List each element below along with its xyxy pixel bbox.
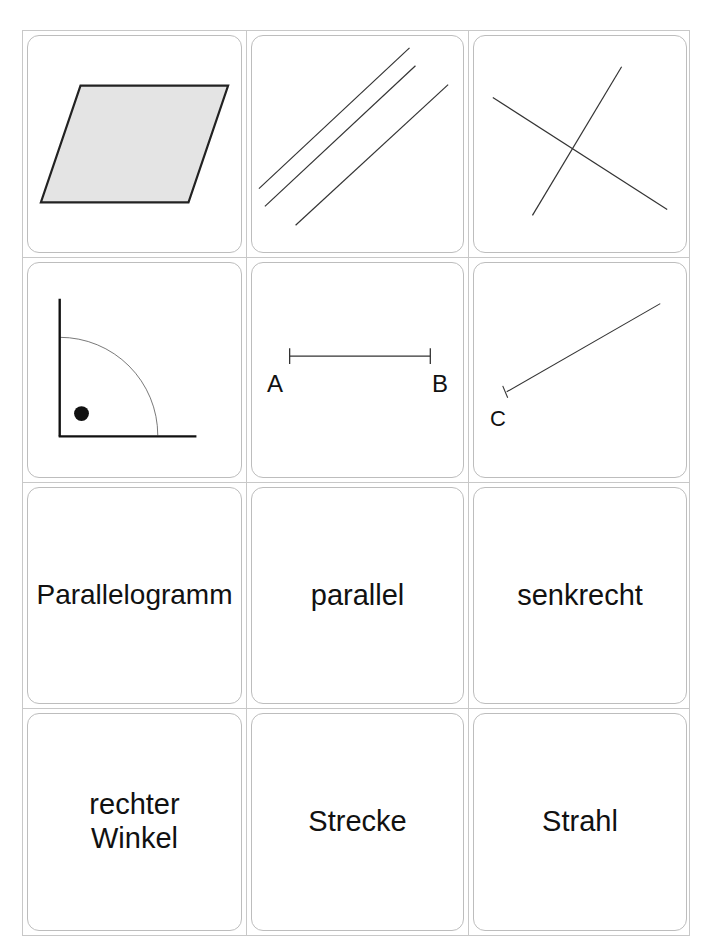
cell-segment-picture: A B bbox=[247, 258, 468, 482]
cell-ray-picture: C bbox=[469, 258, 691, 482]
word-right-angle-line2: Winkel bbox=[89, 822, 179, 856]
word-card-right-angle[interactable]: rechter Winkel bbox=[27, 713, 242, 931]
word-card-perpendicular[interactable]: senkrecht bbox=[473, 487, 687, 704]
picture-card-perpendicular[interactable] bbox=[473, 35, 687, 253]
cell-right-angle-word: rechter Winkel bbox=[23, 709, 246, 935]
point-label-a: A bbox=[267, 372, 283, 396]
parallelogram-icon bbox=[28, 36, 241, 252]
picture-card-ray[interactable]: C bbox=[473, 262, 687, 478]
right-angle-icon bbox=[28, 263, 241, 477]
picture-card-parallel[interactable] bbox=[251, 35, 464, 253]
word-card-parallel[interactable]: parallel bbox=[251, 487, 464, 704]
point-label-b: B bbox=[432, 372, 448, 396]
picture-card-parallelogram[interactable] bbox=[27, 35, 242, 253]
picture-card-segment[interactable]: A B bbox=[251, 262, 464, 478]
perpendicular-lines-icon bbox=[474, 36, 686, 252]
cell-perpendicular-word: senkrecht bbox=[469, 483, 691, 708]
word-right-angle-line1: rechter bbox=[89, 788, 179, 822]
cell-perpendicular-picture bbox=[469, 31, 691, 257]
word-right-angle: rechter Winkel bbox=[28, 714, 241, 930]
word-card-parallelogram[interactable]: Parallelogramm bbox=[27, 487, 242, 704]
cell-parallelogram-picture bbox=[23, 31, 246, 257]
picture-card-right-angle[interactable] bbox=[27, 262, 242, 478]
word-card-segment[interactable]: Strecke bbox=[251, 713, 464, 931]
cell-ray-word: Strahl bbox=[469, 709, 691, 935]
cell-parallelogram-word: Parallelogramm bbox=[23, 483, 246, 708]
cell-parallel-word: parallel bbox=[247, 483, 468, 708]
point-label-c: C bbox=[490, 408, 506, 430]
cell-right-angle-picture bbox=[23, 258, 246, 482]
word-parallelogram: Parallelogramm bbox=[28, 488, 241, 703]
ray-icon bbox=[474, 263, 686, 477]
word-ray: Strahl bbox=[474, 714, 686, 930]
cell-segment-word: Strecke bbox=[247, 709, 468, 935]
word-parallel: parallel bbox=[252, 488, 463, 703]
right-angle-dot-icon bbox=[74, 406, 89, 421]
word-card-ray[interactable]: Strahl bbox=[473, 713, 687, 931]
word-perpendicular: senkrecht bbox=[474, 488, 686, 703]
cell-parallel-picture bbox=[247, 31, 468, 257]
card-sheet: A B C Parallelogramm parallel senkrecht bbox=[22, 30, 690, 936]
word-segment: Strecke bbox=[252, 714, 463, 930]
parallel-lines-icon bbox=[252, 36, 463, 252]
